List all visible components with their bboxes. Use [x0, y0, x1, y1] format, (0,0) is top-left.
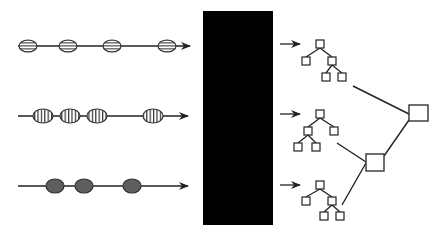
token-ellipse — [123, 179, 141, 193]
connector-line — [384, 120, 409, 156]
token-ellipse — [59, 40, 77, 52]
tree-node — [338, 73, 346, 81]
connector-line — [342, 163, 366, 205]
tree-connectors — [337, 86, 409, 205]
merge-node-top — [409, 105, 428, 121]
tree-edge — [306, 48, 320, 57]
token-ellipse — [75, 179, 93, 193]
tree-node — [316, 40, 324, 48]
tree-node — [328, 197, 336, 205]
diagram-canvas — [0, 0, 445, 237]
tree-edge — [308, 118, 320, 127]
tree-2 — [294, 110, 338, 151]
tree-node — [336, 212, 344, 220]
token-ellipse — [60, 109, 80, 123]
tree-1 — [302, 40, 346, 81]
diagram-svg — [0, 0, 445, 237]
tree-node — [302, 57, 310, 65]
stream-vertical-stripes — [18, 109, 188, 123]
tree-edge — [332, 205, 340, 212]
token-ellipse — [158, 40, 176, 52]
tree-node — [316, 181, 324, 189]
tree-node — [294, 143, 302, 151]
tree-edge — [332, 65, 342, 73]
tree-edge — [320, 118, 334, 127]
tree-node — [302, 197, 310, 205]
token-ellipse — [19, 40, 37, 52]
tree-node — [330, 127, 338, 135]
tree-node — [312, 143, 320, 151]
tree-node — [316, 110, 324, 118]
tree-edge — [324, 205, 332, 212]
tree-edge — [306, 189, 320, 197]
tree-node — [304, 127, 312, 135]
tree-3 — [302, 181, 344, 220]
stream-solid — [18, 179, 188, 193]
tree-edge — [308, 135, 316, 143]
token-ellipse — [33, 109, 53, 123]
tree-node — [322, 73, 330, 81]
tree-node — [320, 212, 328, 220]
black-box-processor — [203, 11, 273, 225]
connector-line — [337, 143, 366, 162]
token-ellipse — [103, 40, 121, 52]
merge-node-lower — [366, 154, 384, 171]
input-streams — [18, 40, 190, 193]
stream-horizontal-stripes — [18, 40, 190, 52]
tree-edge — [320, 189, 332, 197]
parse-trees — [294, 40, 346, 220]
token-ellipse — [46, 179, 64, 193]
tree-edge — [326, 65, 332, 73]
token-ellipse — [143, 109, 163, 123]
tree-edge — [320, 48, 332, 57]
token-ellipse — [87, 109, 107, 123]
tree-edge — [298, 135, 308, 143]
output-arrows — [280, 44, 300, 185]
connector-line — [353, 86, 409, 114]
tree-node — [328, 57, 336, 65]
